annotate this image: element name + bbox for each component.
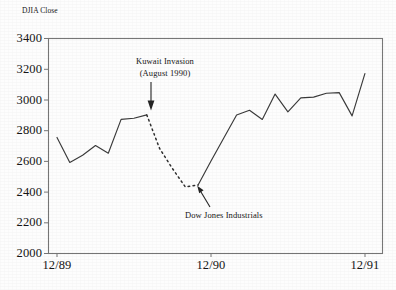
series-line-kuwait-decline	[147, 115, 198, 187]
y-axis-label-2400: 2400	[0, 185, 42, 200]
djia-close-line-chart	[0, 0, 396, 290]
y-axis-label-2200: 2200	[0, 215, 42, 230]
kuwait-invasion-down-arrow	[148, 82, 155, 111]
annotation-kuwait-invasion-line2: (August 1990)	[113, 68, 217, 78]
y-axis-label-3200: 3200	[0, 62, 42, 77]
series-line-recovery	[198, 74, 365, 185]
x-axis-label-1289: 12/89	[27, 258, 87, 273]
series-label-up-left-arrow	[197, 186, 210, 207]
down-arrow-head	[148, 101, 155, 111]
y-axis-label-2600: 2600	[0, 154, 42, 169]
up-left-arrow-head	[197, 186, 203, 193]
y-axis-label-2800: 2800	[0, 123, 42, 138]
x-axis-label-1290: 12/90	[181, 258, 241, 273]
x-axis-label-1291: 12/91	[335, 258, 395, 273]
y-axis-label-3400: 3400	[0, 31, 42, 46]
up-left-arrow-shaft	[200, 190, 211, 208]
y-axis-label-3000: 3000	[0, 93, 42, 108]
y-axis-ticks	[44, 39, 49, 254]
chart-figure: DJIA Close 2000 2200 2400 2600 2800 3000…	[0, 0, 396, 290]
annotation-series-label: Dow Jones Industrials	[185, 210, 305, 220]
y-axis-title: DJIA Close	[22, 6, 58, 15]
annotation-kuwait-invasion-line1: Kuwait Invasion	[113, 56, 217, 66]
series-line-pre-invasion	[57, 115, 147, 162]
